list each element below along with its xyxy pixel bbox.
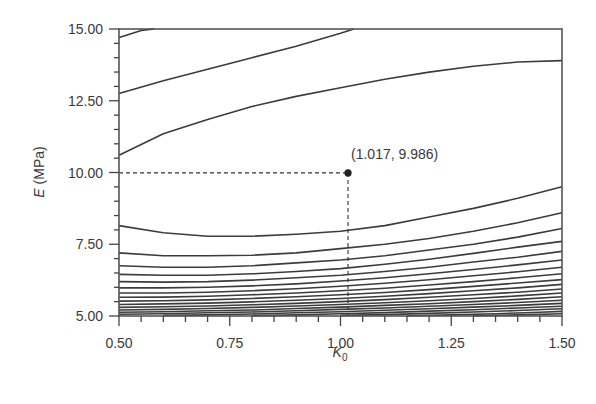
y-tick-label: 7.50: [76, 236, 103, 252]
x-tick-label: 0.75: [216, 335, 243, 351]
y-axis-title: E (MPa): [31, 146, 47, 197]
optimum-point-marker: [344, 169, 351, 176]
y-tick-label: 10.00: [68, 165, 103, 181]
y-tick-label: 12.50: [68, 93, 103, 109]
x-tick-label: 1.25: [438, 335, 465, 351]
x-tick-label: 0.50: [105, 335, 132, 351]
y-tick-label: 15.00: [68, 21, 103, 37]
y-axis-title-unit: (MPa): [31, 146, 47, 188]
x-tick-label: 1.50: [548, 335, 575, 351]
x-axis-title-subscript: 0: [342, 352, 348, 363]
optimum-point-label: (1.017, 9.986): [351, 146, 438, 162]
contour-chart: 0.500.751.001.251.50 5.007.5010.0012.501…: [0, 0, 596, 404]
y-tick-label: 5.00: [76, 308, 103, 324]
chart-background: [0, 0, 596, 404]
